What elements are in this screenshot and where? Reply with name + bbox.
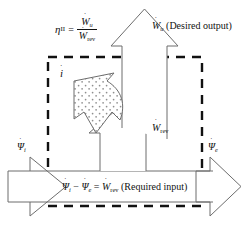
psi-e-overdot: ˙ (210, 138, 213, 146)
numerator-subscript: u (90, 21, 93, 28)
psi-e-subscript: e (215, 146, 218, 153)
desired-output-annotation: (Desired output) (166, 20, 232, 31)
second-law-efficiency-formula: ηII = ˙Wu ˙Wrev (55, 17, 97, 42)
equals-sign: = (68, 25, 74, 35)
eq-minus: − (73, 181, 79, 192)
eq-term3-subscript: rev (110, 186, 118, 193)
psi-i-overdot: ˙ (19, 138, 22, 146)
required-input-equation: ˙Ψi − ˙Ψe = ˙Wrev (Required input) (62, 182, 187, 193)
required-input-annotation: (Required input) (121, 181, 187, 192)
arrow-exergy-in (8, 157, 66, 216)
eta-subscript: II (60, 26, 65, 33)
diagram-canvas (0, 0, 247, 231)
wrev-overdot: ˙ (155, 119, 158, 127)
eq-term2-subscript: e (88, 186, 91, 193)
denominator-overdot: ˙ (81, 27, 84, 35)
eq-equals: = (94, 181, 100, 192)
eq-term1-overdot: ˙ (64, 178, 67, 186)
irreversibility-label: ˙i (60, 68, 63, 79)
efficiency-fraction: ˙Wu ˙Wrev (77, 17, 98, 42)
i-overdot: ˙ (60, 64, 63, 73)
numerator-overdot: ˙ (84, 13, 87, 21)
exergy-in-label: ˙Ψi (17, 142, 26, 153)
wrev-subscript: rev (160, 127, 168, 134)
eq-term2-overdot: ˙ (83, 178, 86, 186)
exergy-flow-diagram: ηII = ˙Wu ˙Wrev ˙Wu (Desired output) ˙Wr… (0, 0, 247, 231)
exergy-out-label: ˙Ψe (208, 142, 218, 153)
fraction-denominator: ˙Wrev (77, 31, 98, 42)
wu-subscript: u (160, 25, 163, 32)
denominator-subscript: rev (87, 35, 95, 42)
eq-term1-subscript: i (69, 186, 71, 193)
psi-i-subscript: i (24, 146, 26, 153)
reversible-work-label: ˙Wrev (152, 123, 169, 134)
wu-overdot: ˙ (155, 17, 158, 25)
eq-term3-overdot: ˙ (105, 178, 108, 186)
desired-output-label: ˙Wu (Desired output) (152, 21, 232, 32)
